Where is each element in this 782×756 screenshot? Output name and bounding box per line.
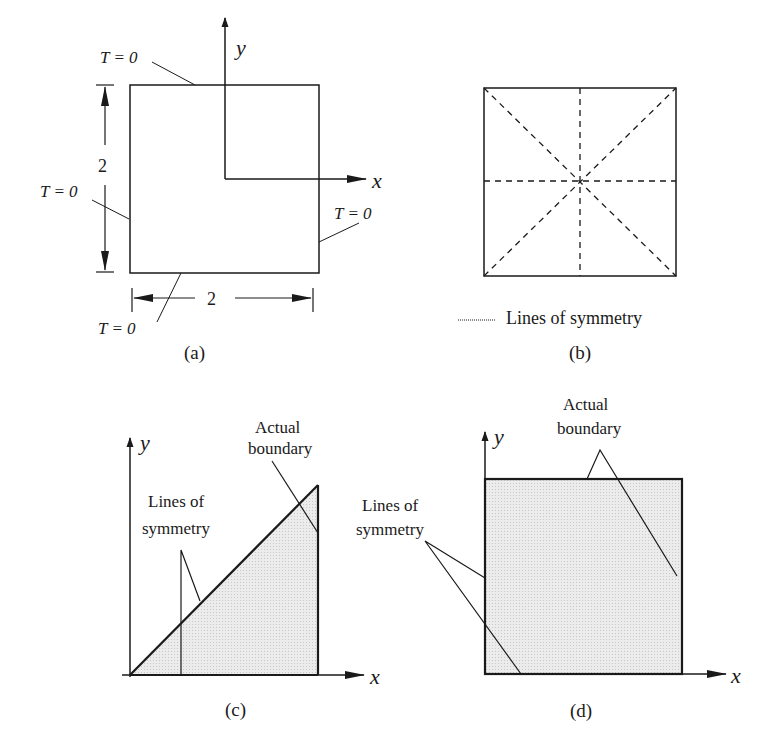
y-axis-label: y	[492, 424, 504, 449]
symmetry-label-line2: symmetry	[356, 520, 424, 539]
actual-boundary-label-line1: Actual	[563, 395, 609, 414]
symmetry-label-line2: symmetry	[142, 519, 210, 538]
panel-c: y x Lines of symmetry Actual boundary (c…	[122, 418, 380, 721]
symmetry-label-line1: Lines of	[362, 496, 419, 515]
bc-top-leader	[152, 62, 195, 85]
caption-d: (d)	[570, 700, 592, 722]
symmetry-label-line1: Lines of	[148, 492, 205, 511]
x-axis-label: x	[371, 168, 382, 193]
panel-d: y x Actual boundary Lines of symmetry (d…	[356, 395, 741, 722]
actual-boundary-label-line1: Actual	[255, 418, 301, 437]
actual-boundary-label-line2: boundary	[557, 419, 622, 438]
panel-a: y x 2 2 T = 0 T = 0 T = 0 T = 0 (a)	[40, 18, 382, 364]
bc-bottom-label: T = 0	[98, 319, 136, 338]
bc-top-label: T = 0	[100, 48, 138, 67]
caption-b: (b)	[569, 342, 591, 364]
caption-a: (a)	[184, 342, 205, 364]
height-dim-label: 2	[98, 156, 107, 176]
bc-left-leader	[92, 200, 129, 219]
caption-c: (c)	[225, 699, 246, 721]
legend-label: Lines of symmetry	[506, 308, 642, 328]
y-axis-label: y	[138, 430, 150, 455]
panel-b: Lines of symmetry (b)	[458, 88, 676, 364]
width-dim-label: 2	[207, 289, 216, 309]
actual-boundary-label-line2: boundary	[248, 439, 313, 458]
bc-right-leader	[319, 223, 359, 242]
figure-canvas: y x 2 2 T = 0 T = 0 T = 0 T = 0 (a)	[0, 0, 782, 756]
bc-right-label: T = 0	[334, 204, 372, 223]
shaded-square	[485, 479, 682, 674]
x-axis-label: x	[369, 664, 380, 689]
y-axis-label: y	[234, 35, 246, 60]
x-axis-label: x	[730, 663, 741, 688]
bc-left-label: T = 0	[40, 182, 78, 201]
